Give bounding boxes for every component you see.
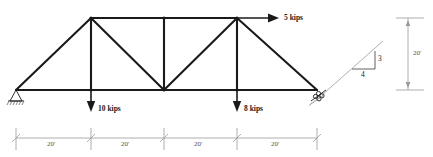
span-dimension-label-4: 20': [271, 141, 279, 148]
span-dimension-label-2: 20': [121, 141, 129, 148]
load-label-8-kips: 8 kips: [244, 105, 263, 113]
slope-triangle-3-4: [352, 51, 375, 69]
height-dimension-label: 20': [413, 50, 421, 57]
slope-run-label: 4: [361, 71, 365, 79]
inclined-roller-support-right: [310, 90, 327, 106]
span-dimension-label-3: 20': [194, 141, 202, 148]
load-arrow-5-kips: [237, 14, 279, 23]
load-label-10-kips: 10 kips: [98, 105, 121, 113]
right-end-post-diagonal: [237, 18, 317, 90]
left-end-post-diagonal: [16, 18, 91, 90]
load-arrow-8-kips: [233, 90, 241, 112]
slope-reference-line: [322, 41, 383, 95]
load-arrow-10-kips: [87, 90, 95, 112]
load-label-5-kips: 5 kips: [284, 14, 303, 22]
truss-structure-drawing: [0, 0, 433, 157]
span-dimension-label-1: 20': [47, 141, 55, 148]
diagonal-member-left: [91, 18, 164, 90]
pin-support-left: [7, 90, 24, 105]
truss-diagram-canvas: 5 kips 10 kips 8 kips 20' 20' 20' 20' 20…: [0, 0, 433, 157]
diagonal-member-right: [164, 18, 237, 90]
slope-rise-label: 3: [378, 55, 382, 63]
